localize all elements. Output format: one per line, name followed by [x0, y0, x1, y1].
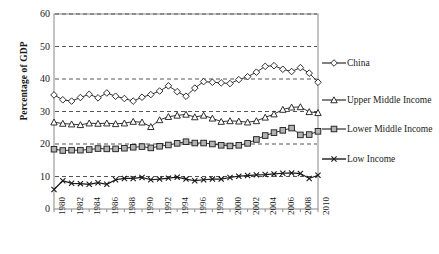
square-marker	[322, 123, 346, 135]
x-tick-label: 1990	[146, 197, 155, 215]
triangle-marker	[322, 94, 346, 106]
legend-label: Upper Middle Income	[347, 95, 431, 105]
legend-label: China	[347, 58, 370, 68]
x-tick-label: 1994	[181, 197, 190, 215]
x-tick-label: 1984	[93, 197, 102, 215]
x-tick-label: 1982	[76, 197, 85, 215]
x-tick-label: 2004	[269, 197, 278, 215]
legend-label: Lower Middle Income	[347, 124, 432, 134]
legend-item-china[interactable]: China	[322, 56, 370, 70]
x-tick-label: 1988	[128, 197, 137, 215]
legend-item-upper-middle-income[interactable]: Upper Middle Income	[322, 93, 431, 107]
legend-item-low-income[interactable]: Low Income	[322, 152, 395, 166]
chart-container: Percentage of GDP 0102030405060 19801982…	[0, 0, 439, 254]
diamond-marker	[331, 60, 338, 67]
x-tick-label: 2008	[304, 197, 313, 215]
square-marker	[331, 126, 337, 132]
diamond-marker	[322, 57, 346, 69]
legend-item-lower-middle-income[interactable]: Lower Middle Income	[322, 122, 432, 136]
x-tick-label: 1992	[164, 197, 173, 215]
x-tick-label: 2002	[252, 197, 261, 215]
x-tick-label: 2000	[234, 197, 243, 215]
x-tick-label: 1980	[58, 197, 67, 215]
chart-legend: ChinaUpper Middle IncomeLower Middle Inc…	[320, 0, 439, 254]
legend-label: Low Income	[347, 154, 395, 164]
x-tick-label: 1986	[111, 197, 120, 215]
x-tick-label: 1996	[199, 197, 208, 215]
x-tick-label: 1998	[216, 197, 225, 215]
x-tick-label: 2006	[287, 197, 296, 215]
cross-marker	[322, 153, 346, 165]
